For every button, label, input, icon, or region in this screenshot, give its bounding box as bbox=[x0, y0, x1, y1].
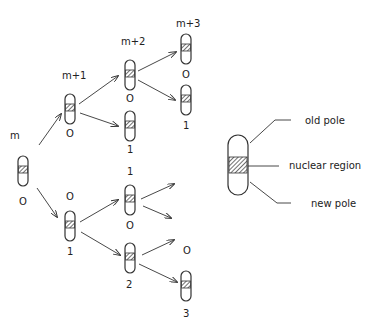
cell-m1-top bbox=[65, 94, 75, 124]
legend-cell bbox=[228, 135, 248, 195]
cell-lineage-diagram: m m+1 m+2 m+3 O O O 1 O 1 O 1 1 bbox=[0, 0, 384, 333]
legend-pointer-old-pole bbox=[250, 120, 291, 143]
age-label: 3 bbox=[183, 308, 189, 319]
age-label: O bbox=[66, 128, 74, 139]
age-label: 2 bbox=[126, 279, 132, 290]
age-label: 1 bbox=[127, 166, 133, 177]
age-label: 1 bbox=[183, 120, 189, 131]
generation-label-m2: m+2 bbox=[121, 36, 145, 47]
cell-m3-a bbox=[181, 34, 191, 64]
generation-label-m: m bbox=[10, 130, 20, 141]
legend-pointer-new-pole bbox=[250, 182, 291, 203]
age-label: O bbox=[182, 69, 190, 80]
age-label: O bbox=[183, 245, 191, 256]
cell-m3-b bbox=[181, 85, 191, 115]
age-label: 1 bbox=[67, 246, 73, 257]
age-label: 1 bbox=[127, 144, 133, 155]
legend-label-old-pole: old pole bbox=[305, 115, 345, 126]
cell-m2-a bbox=[125, 60, 135, 90]
cell-m3-d bbox=[181, 271, 191, 301]
cell-m2-c bbox=[125, 185, 135, 215]
age-label: O bbox=[126, 220, 134, 231]
age-label: O bbox=[66, 191, 74, 202]
generation-label-m1: m+1 bbox=[62, 70, 86, 81]
cell-m2-b bbox=[125, 111, 135, 141]
legend-label-new-pole: new pole bbox=[311, 198, 356, 209]
division-arrows bbox=[37, 52, 177, 282]
cell-m1-bottom bbox=[65, 211, 75, 241]
generation-label-m3: m+3 bbox=[176, 18, 200, 29]
age-label: O bbox=[126, 93, 134, 104]
cell-m2-d bbox=[125, 243, 135, 273]
legend-label-nuclear-region: nuclear region bbox=[289, 160, 361, 171]
cell-m bbox=[18, 156, 28, 186]
age-label: O bbox=[19, 196, 27, 207]
